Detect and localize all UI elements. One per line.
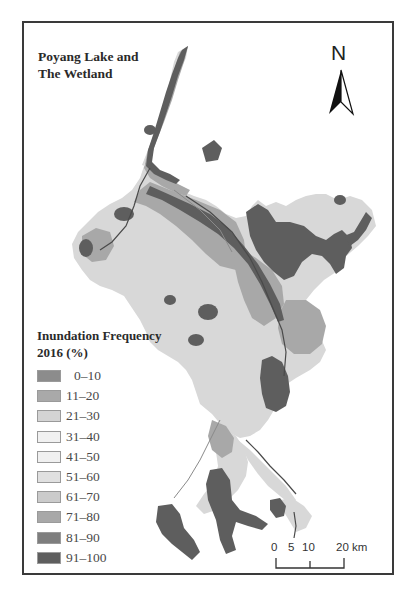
- scale-tick-20: 20 km: [336, 541, 367, 553]
- legend-label: 91–100: [66, 550, 107, 566]
- legend-item: 41–50: [37, 447, 107, 467]
- legend-swatch: [37, 390, 61, 402]
- legend-label: 0–10: [66, 368, 101, 384]
- scale-tick-0: 0: [271, 541, 277, 553]
- map-title-line2: The Wetland: [38, 65, 139, 82]
- scale-bar: [274, 558, 346, 570]
- legend-label: 51–60: [66, 469, 100, 485]
- legend-label: 71–80: [66, 509, 100, 525]
- legend-swatch: [37, 491, 61, 503]
- legend-swatch: [37, 370, 61, 382]
- legend-label: 21–30: [66, 408, 100, 424]
- legend-swatch: [37, 431, 61, 443]
- legend-item: 51–60: [37, 467, 107, 487]
- legend-item: 61–70: [37, 487, 107, 507]
- legend-swatch: [37, 471, 61, 483]
- legend-item: 71–80: [37, 507, 107, 527]
- legend-label: 61–70: [66, 489, 100, 505]
- legend-item: 11–20: [37, 386, 107, 406]
- legend-item: 91–100: [37, 548, 107, 568]
- legend-label: 31–40: [66, 429, 100, 445]
- legend-item: 81–90: [37, 528, 107, 548]
- legend-item: 31–40: [37, 427, 107, 447]
- legend-title-line2: 2016 (%): [37, 344, 161, 361]
- north-arrow-icon: [325, 40, 365, 120]
- legend-label: 11–20: [66, 388, 99, 404]
- map-title: Poyang Lake and The Wetland: [38, 48, 139, 82]
- legend-title: Inundation Frequency 2016 (%): [37, 327, 161, 361]
- legend-item: 0–10: [37, 366, 107, 386]
- legend-label: 81–90: [66, 530, 100, 546]
- legend-swatch: [37, 511, 61, 523]
- legend-label: 41–50: [66, 449, 100, 465]
- scale-tick-10: 10: [302, 541, 315, 553]
- legend-item: 21–30: [37, 406, 107, 426]
- legend-swatch: [37, 552, 61, 564]
- legend-title-line1: Inundation Frequency: [37, 327, 161, 344]
- scale-tick-5: 5: [288, 541, 294, 553]
- legend-swatch: [37, 532, 61, 544]
- legend-swatch: [37, 410, 61, 422]
- legend: 0–10 11–20 21–30 31–40 41–50 51–60 61–70…: [37, 366, 107, 568]
- map-title-line1: Poyang Lake and: [38, 48, 139, 65]
- legend-swatch: [37, 451, 61, 463]
